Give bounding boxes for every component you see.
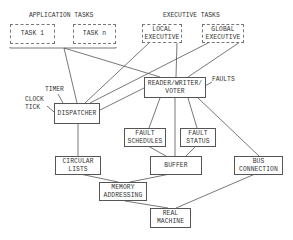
circular-lists-box: CIRCULAR LISTS [55, 156, 101, 175]
application-tasks-label: APPLICATION TASKS [29, 12, 93, 20]
global-executive-box: GLOBAL EXECUTIVE [202, 24, 244, 43]
memory-addressing-box: MEMORY ADDRESSING [99, 182, 147, 201]
fault-schedules-box: FAULT SCHEDULES [124, 128, 166, 147]
dispatcher-box: DISPATCHER [54, 103, 100, 124]
clock-tick-label: CLOCK TICK [25, 96, 44, 112]
fault-status-box: FAULT STATUS [180, 128, 216, 147]
real-machine-box: REAL MACHINE [150, 208, 191, 228]
bus-connection-box: BUS CONNECTION [234, 156, 283, 175]
buffer-box: BUFFER [150, 156, 202, 175]
application-tasks-bracket [10, 47, 116, 48]
task-1-box: TASK 1 [10, 24, 55, 44]
faults-label: FAULTS [212, 76, 235, 84]
executive-tasks-label: EXECUTIVE TASKS [163, 12, 220, 20]
task-n-box: TASK n [73, 24, 116, 44]
timer-label: TIMER [45, 86, 64, 94]
reader-writer-voter-box: READER/WRITER/ VOTER [144, 77, 206, 98]
local-executive-box: LOCAL EXECUTIVE [142, 24, 182, 43]
